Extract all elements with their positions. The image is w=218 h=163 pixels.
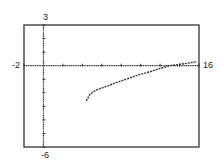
curve-line [86, 62, 197, 101]
data-curve [86, 62, 197, 101]
axes [24, 25, 199, 147]
graph-plot [0, 0, 218, 163]
y-max-label: 3 [43, 13, 48, 22]
y-min-label: -6 [41, 151, 49, 160]
x-max-label: 16 [203, 61, 213, 70]
x-min-label: -2 [12, 61, 20, 70]
plot-frame [24, 25, 199, 147]
tick-marks [24, 25, 199, 147]
